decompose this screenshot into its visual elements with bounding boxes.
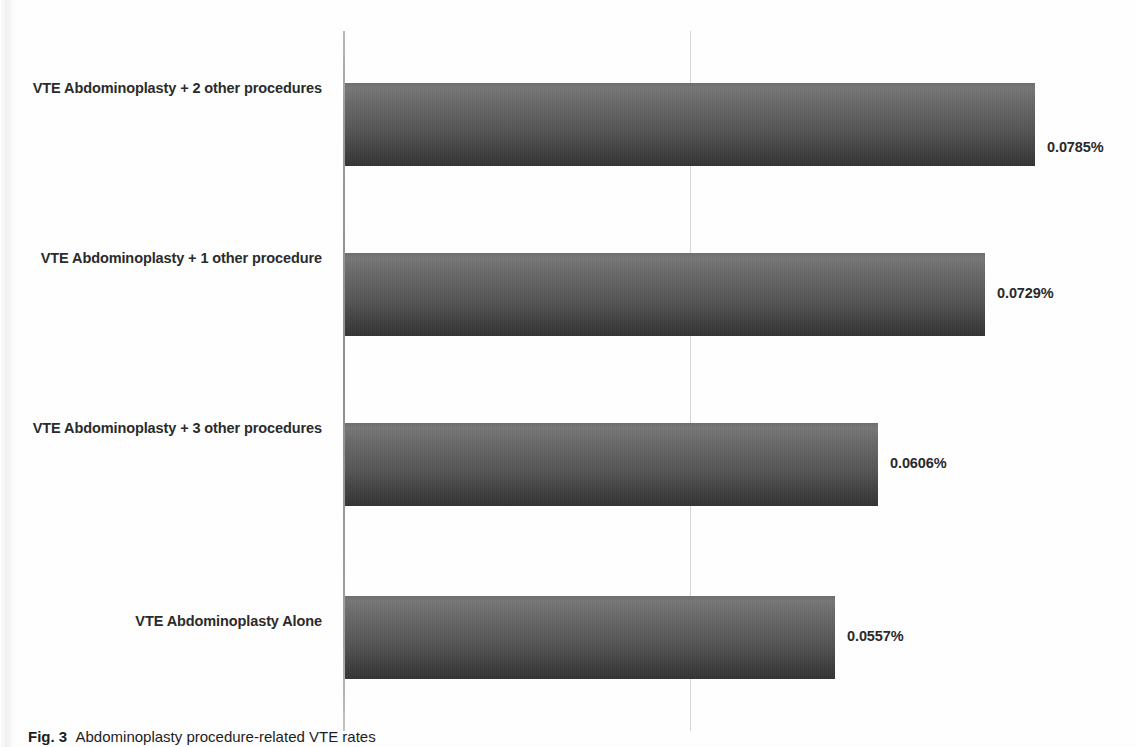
bar-0 [345,83,1035,166]
category-label-3: VTE Abdominoplasty Alone [0,613,322,630]
category-label-1: VTE Abdominoplasty + 1 other procedure [0,250,322,267]
category-label-0: VTE Abdominoplasty + 2 other procedures [0,80,322,97]
figure-caption-text: Abdominoplasty procedure-related VTE rat… [76,728,376,745]
chart-row: VTE Abdominoplasty + 1 other procedure 0… [0,196,1136,366]
bar-2 [345,423,878,506]
category-label-2: VTE Abdominoplasty + 3 other procedures [0,420,322,437]
value-label-0: 0.0785% [1047,139,1104,155]
bar-1 [345,253,985,336]
value-label-3: 0.0557% [847,628,904,644]
figure-number: Fig. 3 [28,728,67,745]
chart-row: VTE Abdominoplasty + 2 other procedures … [0,26,1136,196]
value-label-1: 0.0729% [997,285,1054,301]
chart-row: VTE Abdominoplasty Alone 0.0557% [0,536,1136,706]
figure-caption-text-spacer [67,728,75,745]
figure-page: VTE Abdominoplasty + 2 other procedures … [0,0,1136,747]
bar-chart: VTE Abdominoplasty + 2 other procedures … [0,0,1136,720]
figure-caption: Fig. 3 Abdominoplasty procedure-related … [28,728,1118,747]
chart-row: VTE Abdominoplasty + 3 other procedures … [0,366,1136,536]
bar-3 [345,596,835,679]
value-label-2: 0.0606% [890,455,947,471]
